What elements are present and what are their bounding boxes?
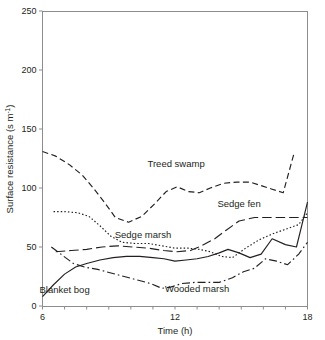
x-tick-label: 6: [40, 312, 45, 322]
y-tick-label: 0: [31, 301, 36, 311]
surface-resistance-line-chart: 050100150200250 61218 Treed swampSedge m…: [0, 0, 325, 340]
y-tick-label: 250: [21, 6, 36, 16]
y-axis-title-tail: ): [4, 105, 15, 108]
y-tick-label: 200: [21, 65, 36, 75]
x-tick-label: 18: [302, 312, 312, 322]
series-label-treed-swamp: Treed swamp: [148, 158, 205, 169]
series-label-sedge-fen: Sedge fen: [217, 198, 260, 209]
series-label-blanket-bog: Blanket bog: [39, 284, 89, 295]
y-tick-label: 150: [21, 124, 36, 134]
y-tick-label: 100: [21, 183, 36, 193]
series-label-sedge-marsh: Sedge marsh: [115, 229, 172, 240]
series-annotations: Treed swampSedge marshSedge fenBlanket b…: [39, 158, 260, 295]
series-label-wooded-marsh: Wooded marsh: [165, 283, 229, 294]
y-axis-title-main: Surface resistance (s m: [4, 114, 15, 214]
y-tick-label: 50: [26, 242, 36, 252]
svg-text:Surface resistance (s m-1): Surface resistance (s m-1): [4, 105, 15, 214]
x-axis-title: Time (h): [157, 325, 192, 336]
series-line-sedge-marsh: [54, 212, 308, 258]
y-axis-title: Surface resistance (s m-1): [4, 105, 15, 214]
series-curves: [43, 151, 308, 296]
figure-container: 050100150200250 61218 Treed swampSedge m…: [0, 0, 325, 340]
y-axis-ticks: 050100150200250: [21, 6, 42, 311]
x-axis-ticks: 61218: [40, 306, 313, 322]
x-tick-label: 12: [170, 312, 180, 322]
